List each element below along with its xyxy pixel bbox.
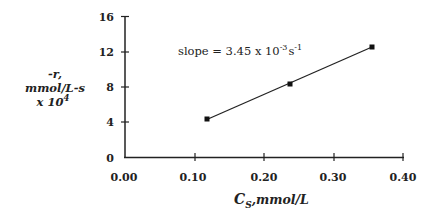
- data-point: [370, 45, 375, 50]
- svg-text:-r,: -r,: [48, 67, 62, 81]
- data-point: [288, 82, 293, 87]
- x-tick-label: 0.10: [180, 171, 207, 184]
- chart: 16 12 8 4 0 0.00 0.10 0.20 0.30 0.40 slo…: [0, 0, 434, 220]
- x-tick-label: 0.00: [111, 171, 138, 184]
- y-tick-labels: 16 12 8 4 0: [99, 11, 115, 165]
- y-tick-label: 0: [106, 152, 114, 165]
- x-tick-label: 0.20: [251, 171, 278, 184]
- data-point: [205, 117, 210, 122]
- slope-annotation: slope = 3.45 x 10-3s-1: [178, 43, 302, 58]
- x-tick-label: 0.30: [320, 171, 347, 184]
- svg-text:x 104: x 104: [36, 93, 70, 109]
- y-tick-label: 16: [99, 11, 115, 24]
- svg-text:mmol/L-s: mmol/L-s: [25, 81, 85, 95]
- y-axis-label: -r, mmol/L-s x 104: [25, 67, 85, 109]
- y-tick-label: 12: [99, 46, 114, 59]
- x-tick-labels: 0.00 0.10 0.20 0.30 0.40: [111, 171, 417, 184]
- y-tick-label: 8: [106, 81, 114, 94]
- x-tick-label: 0.40: [390, 171, 417, 184]
- y-tick-label: 4: [106, 116, 114, 129]
- x-axis-label: CS,mmol/L: [234, 191, 309, 210]
